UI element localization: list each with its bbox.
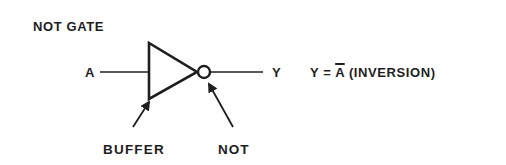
buffer-annotation-label: BUFFER [103, 143, 165, 157]
equation-lhs: Y = [310, 65, 335, 80]
inversion-bubble-icon [198, 66, 210, 78]
diagram-title: NOT GATE [33, 20, 104, 33]
output-label: Y [272, 66, 281, 79]
buffer-triangle-icon [149, 43, 197, 99]
equation-rhs: (INVERSION) [345, 65, 436, 80]
not-arrow-icon [209, 84, 233, 127]
buffer-arrow-icon [133, 102, 149, 127]
not-annotation-label: NOT [218, 143, 250, 157]
inversion-equation: Y = A (INVERSION) [310, 66, 436, 79]
not-gate-diagram: NOT GATE A Y Y = A (INVERSION) BUFFER NO… [0, 0, 506, 165]
equation-negated-var: A [335, 65, 345, 80]
input-label: A [85, 66, 95, 79]
